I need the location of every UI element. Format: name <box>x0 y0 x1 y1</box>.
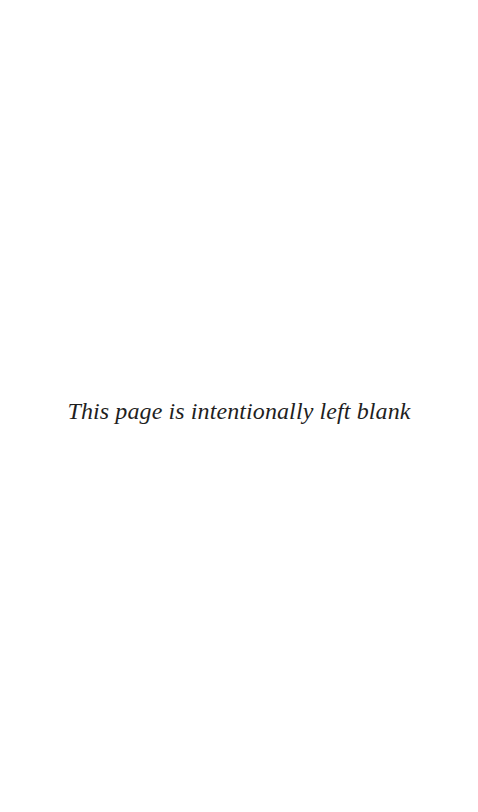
blank-notice-container: This page is intentionally left blank <box>0 396 478 426</box>
blank-page-notice: This page is intentionally left blank <box>67 396 410 426</box>
blank-page: This page is intentionally left blank <box>0 0 478 812</box>
